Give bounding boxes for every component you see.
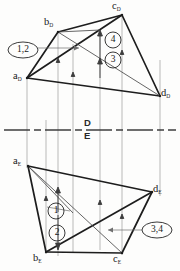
arrow-head-3 bbox=[98, 58, 103, 64]
lower-view-thin-lines bbox=[28, 166, 122, 253]
vertex-dot-a-lower bbox=[27, 165, 29, 167]
vertex-label-a-lower: aE bbox=[13, 156, 21, 167]
drawing-sheet: aD bD cD dD aE bE cE dE D E 1,2 4 3 1 2 … bbox=[0, 0, 180, 271]
arrow-tick-lower-b2 bbox=[44, 196, 48, 201]
plane-label-D: D bbox=[84, 118, 91, 128]
edge-lower-bc bbox=[46, 252, 122, 253]
construction-arrowhead-34 bbox=[108, 228, 113, 233]
vertex-dot-b-lower bbox=[45, 251, 47, 253]
arrow-tick-lower-mid2 bbox=[98, 200, 102, 205]
vertex-label-c-upper: cD bbox=[112, 1, 121, 12]
vertex-dot-a-upper bbox=[26, 77, 28, 79]
vertex-label-c-lower: cE bbox=[113, 254, 121, 265]
arrow-tick-c bbox=[120, 50, 124, 55]
edge-upper-ad bbox=[27, 78, 160, 96]
arrow-head-1 bbox=[56, 187, 61, 193]
construction-arrowhead-12 bbox=[74, 46, 79, 51]
edge-lower-ab bbox=[28, 166, 46, 252]
projector-lines-group bbox=[27, 15, 160, 256]
arrow-tick-lower-c bbox=[120, 214, 124, 219]
marker-label-3: 3 bbox=[105, 55, 121, 65]
edge-upper-bc bbox=[58, 15, 122, 32]
marker-label-1: 1 bbox=[48, 206, 64, 216]
vertex-label-a-upper: aD bbox=[13, 71, 22, 82]
edge-upper-ab bbox=[27, 32, 58, 78]
marker-label-1-2: 1,2 bbox=[8, 45, 38, 55]
vertex-label-d-lower: dE bbox=[153, 184, 162, 195]
marker-label-2: 2 bbox=[49, 228, 65, 238]
vertex-dot-c-lower bbox=[121, 252, 123, 254]
plane-label-E: E bbox=[84, 131, 90, 141]
vertex-dot-b-upper bbox=[57, 31, 59, 33]
marker-label-3-4: 3,4 bbox=[142, 225, 172, 235]
edge-lower-ad bbox=[28, 166, 152, 192]
vertex-dot-c-upper bbox=[121, 14, 123, 16]
arrow-tick-mid1 bbox=[71, 72, 75, 77]
vertex-label-b-upper: bD bbox=[44, 17, 53, 28]
lower-view-object-lines bbox=[28, 166, 152, 253]
marker-label-4: 4 bbox=[105, 35, 121, 45]
edge-lower-ac bbox=[28, 166, 122, 253]
vertex-label-d-upper: dD bbox=[161, 88, 170, 99]
vertex-label-b-lower: bE bbox=[33, 253, 42, 264]
